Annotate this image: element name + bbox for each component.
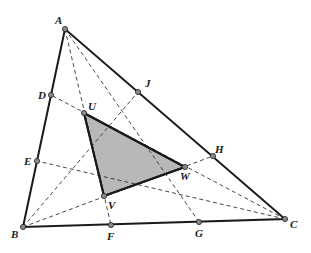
point-d: [48, 92, 53, 97]
label-u: U: [88, 100, 97, 112]
point-j: [135, 89, 140, 94]
label-d: D: [37, 89, 46, 101]
label-b: B: [10, 228, 18, 240]
label-g: G: [195, 227, 203, 239]
geometry-diagram: A B C D E F G H J U V W: [0, 0, 311, 253]
point-f: [108, 222, 113, 227]
label-f: F: [106, 230, 115, 242]
point-g: [196, 219, 201, 224]
label-e: E: [23, 155, 31, 167]
point-w: [182, 164, 187, 169]
label-c: C: [290, 218, 298, 230]
point-u: [81, 110, 86, 115]
point-b: [20, 224, 25, 229]
dashed-cevians: [23, 29, 285, 227]
point-a: [62, 26, 67, 31]
label-a: A: [54, 14, 62, 26]
point-labels: A B C D E F G H J U V W: [10, 14, 298, 242]
label-j: J: [144, 77, 151, 89]
label-v: V: [108, 199, 117, 211]
point-v: [101, 193, 106, 198]
label-w: W: [180, 170, 191, 182]
segment-ag: [65, 29, 199, 222]
point-e: [34, 158, 39, 163]
outer-triangle-abc: [23, 29, 285, 227]
label-h: H: [214, 143, 224, 155]
point-c: [282, 216, 287, 221]
